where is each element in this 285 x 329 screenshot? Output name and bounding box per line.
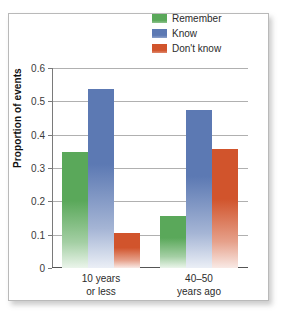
x-label-group-0-line2: or less — [52, 285, 150, 298]
y-tick-label-0.4: 0.4 — [31, 129, 45, 140]
x-label-group-1-line1: 40–50 — [150, 272, 248, 285]
bar-don-t-know-group-1[interactable] — [212, 149, 238, 268]
x-label-group-0: 10 years or less — [52, 272, 150, 298]
legend-label-know: Know — [172, 28, 197, 39]
legend-swatch-remember — [152, 14, 167, 23]
x-label-group-0-line1: 10 years — [52, 272, 150, 285]
bar-remember-group-1[interactable] — [160, 216, 186, 268]
legend-swatch-dont-know — [152, 44, 167, 53]
y-tick-label-0.5: 0.5 — [31, 96, 45, 107]
bar-know-group-0[interactable] — [88, 89, 114, 268]
bar-know-group-1[interactable] — [186, 110, 212, 268]
y-axis-line — [52, 68, 53, 268]
gridline-0.4 — [52, 135, 248, 136]
legend-label-dont-know: Don't know — [172, 43, 221, 54]
gridline-0.5 — [52, 101, 248, 102]
chart-legend: Remember Know Don't know — [152, 12, 221, 55]
bar-don-t-know-group-0[interactable] — [114, 233, 140, 268]
legend-label-remember: Remember — [172, 13, 221, 24]
legend-item-dont-know: Don't know — [152, 42, 221, 55]
y-tick-0 — [48, 268, 52, 269]
y-tick-label-0: 0 — [39, 263, 45, 274]
bar-remember-group-0[interactable] — [62, 152, 88, 268]
plot-area: 00.10.20.30.40.50.6 — [52, 68, 248, 268]
legend-item-remember: Remember — [152, 12, 221, 25]
y-tick-label-0.6: 0.6 — [31, 63, 45, 74]
y-axis-title: Proportion of events — [12, 68, 23, 168]
x-axis-labels: 10 years or less 40–50 years ago — [52, 272, 248, 298]
x-label-group-1-line2: years ago — [150, 285, 248, 298]
legend-item-know: Know — [152, 27, 221, 40]
x-label-group-1: 40–50 years ago — [150, 272, 248, 298]
y-tick-label-0.2: 0.2 — [31, 196, 45, 207]
chart-figure: Remember Know Don't know Proportion of e… — [0, 0, 285, 329]
legend-swatch-know — [152, 29, 167, 38]
gridline-0.6 — [52, 68, 248, 69]
y-tick-label-0.3: 0.3 — [31, 163, 45, 174]
y-tick-label-0.1: 0.1 — [31, 229, 45, 240]
